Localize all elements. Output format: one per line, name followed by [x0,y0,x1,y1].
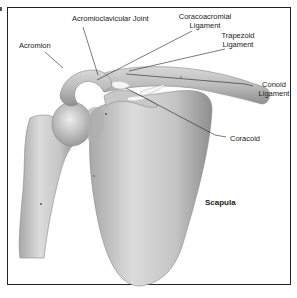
humeral-head [52,102,92,146]
label-acromion: Acromion [19,41,51,50]
scapula-body [90,91,212,286]
label-scapula: Scapula [205,198,236,207]
leader-acromioclavicular-joint [83,27,98,75]
label-coracoid: Coracoid [230,134,260,143]
acromion [60,70,112,106]
label-trapezoid-ligament: Trapezoid Ligament [213,31,263,49]
label-coracoacromial-ligament: Coracoacromial Ligament [170,12,240,30]
leader-acromion [45,52,63,68]
label-conoid-ligament: Conoid Ligament [254,80,294,98]
label-acromioclavicular-joint: Acromioclavicular Joint [72,14,149,23]
